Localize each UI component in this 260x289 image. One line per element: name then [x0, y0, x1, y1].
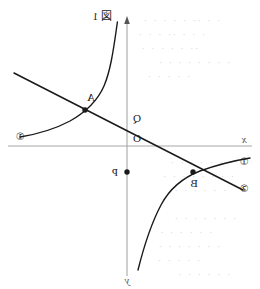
- figure-title: 図 1: [93, 10, 112, 22]
- hyperbola-branch-lower-left: [138, 158, 250, 270]
- figure-svg: A B P Q O x y 図 1 ① ① ②: [0, 0, 260, 289]
- curve-label-1-left: ①: [240, 156, 249, 167]
- point-p-marker: [124, 169, 129, 174]
- hyperbola-branch-upper-right: [20, 22, 117, 137]
- origin-label: O: [133, 132, 141, 144]
- point-a-label: A: [87, 91, 95, 103]
- x-axis-label: x: [241, 133, 247, 145]
- y-axis-arrow-icon: [124, 16, 130, 24]
- point-a-marker: [82, 107, 87, 112]
- y-axis-label: y: [124, 274, 130, 286]
- point-b-label: B: [190, 177, 197, 189]
- mirrored-figure-layer: A B P Q O x y 図 1 ① ① ②: [0, 0, 260, 289]
- curve-label-2-line: ②: [240, 183, 249, 194]
- curve-label-1-right: ①: [16, 131, 25, 142]
- point-q-label: Q: [133, 112, 141, 124]
- point-b-marker: [190, 169, 195, 174]
- point-p-label: P: [112, 166, 118, 178]
- math-figure-canvas: · · ·· · · · · ·· · · ·· · · ··· · · · ·…: [0, 0, 260, 289]
